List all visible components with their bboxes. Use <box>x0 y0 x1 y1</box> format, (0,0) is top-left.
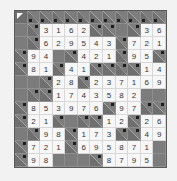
entry-cell[interactable]: 4 <box>78 89 91 102</box>
black-cell <box>153 141 166 154</box>
entry-cell[interactable]: 6 <box>78 141 91 154</box>
entry-cell[interactable]: 4 <box>65 63 78 76</box>
entry-cell[interactable]: 4 <box>40 50 53 63</box>
entry-cell[interactable]: 8 <box>65 76 78 89</box>
entry-cell[interactable]: 9 <box>40 128 53 141</box>
entry-cell[interactable]: 2 <box>90 76 103 89</box>
entry-cell[interactable]: 7 <box>65 89 78 102</box>
clue-number <box>111 64 114 67</box>
entry-cell[interactable]: 5 <box>40 102 53 115</box>
clue-cell <box>103 102 116 115</box>
clue-number <box>91 19 94 22</box>
clue-number <box>111 103 114 106</box>
clue-cell <box>15 63 28 76</box>
entry-cell[interactable]: 6 <box>153 24 166 37</box>
entry-cell[interactable]: 5 <box>103 89 116 102</box>
clue-cell <box>28 37 41 50</box>
entry-cell[interactable]: 1 <box>40 63 53 76</box>
entry-cell[interactable]: 7 <box>28 141 41 154</box>
entry-cell[interactable]: 9 <box>128 50 141 63</box>
entry-cell[interactable]: 8 <box>103 154 116 167</box>
clue-number <box>35 38 38 41</box>
entry-cell[interactable]: 8 <box>116 89 129 102</box>
entry-cell[interactable]: 9 <box>116 102 129 115</box>
entry-cell[interactable]: 7 <box>78 102 91 115</box>
entry-cell[interactable]: 1 <box>141 141 154 154</box>
entry-cell[interactable]: 2 <box>141 37 154 50</box>
black-cell <box>15 76 28 89</box>
entry-cell[interactable]: 2 <box>28 115 41 128</box>
entry-cell[interactable]: 2 <box>53 37 66 50</box>
clue-cell <box>128 11 141 24</box>
entry-cell[interactable]: 6 <box>141 76 154 89</box>
entry-cell[interactable]: 7 <box>116 76 129 89</box>
entry-cell[interactable]: 9 <box>90 141 103 154</box>
entry-cell[interactable]: 6 <box>153 115 166 128</box>
entry-cell[interactable]: 6 <box>90 102 103 115</box>
entry-cell[interactable]: 2 <box>128 89 141 102</box>
entry-cell[interactable]: 3 <box>103 76 116 89</box>
entry-cell[interactable]: 7 <box>128 37 141 50</box>
clue-number <box>85 116 88 119</box>
entry-cell[interactable]: 9 <box>28 50 41 63</box>
clue-cell <box>53 115 66 128</box>
entry-cell[interactable]: 1 <box>53 141 66 154</box>
entry-cell[interactable]: 6 <box>40 37 53 50</box>
entry-cell[interactable]: 2 <box>53 76 66 89</box>
entry-cell[interactable]: 7 <box>90 128 103 141</box>
entry-cell[interactable]: 1 <box>128 76 141 89</box>
entry-cell[interactable]: 1 <box>103 115 116 128</box>
entry-cell[interactable]: 2 <box>141 115 154 128</box>
entry-cell[interactable]: 1 <box>78 128 91 141</box>
entry-cell[interactable]: 1 <box>53 24 66 37</box>
entry-cell[interactable]: 6 <box>65 24 78 37</box>
entry-cell[interactable]: 4 <box>78 50 91 63</box>
entry-cell[interactable]: 7 <box>116 154 129 167</box>
entry-cell[interactable]: 1 <box>153 37 166 50</box>
entry-cell[interactable]: 1 <box>53 89 66 102</box>
entry-cell[interactable]: 8 <box>28 63 41 76</box>
entry-cell[interactable]: 8 <box>53 128 66 141</box>
entry-cell[interactable]: 4 <box>141 128 154 141</box>
entry-cell[interactable]: 4 <box>153 63 166 76</box>
entry-cell[interactable]: 1 <box>141 63 154 76</box>
entry-cell[interactable]: 3 <box>103 37 116 50</box>
entry-cell[interactable]: 9 <box>65 37 78 50</box>
entry-cell[interactable]: 7 <box>128 102 141 115</box>
entry-cell[interactable]: 9 <box>65 102 78 115</box>
entry-cell[interactable]: 8 <box>28 102 41 115</box>
entry-cell[interactable]: 9 <box>128 154 141 167</box>
entry-cell[interactable]: 5 <box>103 141 116 154</box>
entry-cell[interactable]: 9 <box>28 154 41 167</box>
entry-cell[interactable]: 9 <box>153 128 166 141</box>
entry-cell[interactable]: 9 <box>153 76 166 89</box>
entry-cell[interactable]: 3 <box>90 89 103 102</box>
entry-cell[interactable]: 2 <box>116 115 129 128</box>
entry-cell[interactable]: 5 <box>141 50 154 63</box>
clue-number <box>60 64 63 67</box>
entry-cell[interactable]: 1 <box>103 50 116 63</box>
entry-cell[interactable]: 1 <box>40 115 53 128</box>
entry-cell[interactable]: 5 <box>141 154 154 167</box>
entry-cell[interactable]: 2 <box>40 141 53 154</box>
clue-cell <box>65 141 78 154</box>
entry-cell[interactable]: 2 <box>78 24 91 37</box>
entry-cell[interactable]: 2 <box>90 50 103 63</box>
entry-cell[interactable]: 1 <box>78 63 91 76</box>
entry-cell[interactable]: 3 <box>53 102 66 115</box>
entry-cell[interactable]: 3 <box>40 24 53 37</box>
entry-cell[interactable]: 3 <box>103 128 116 141</box>
entry-cell[interactable]: 4 <box>90 37 103 50</box>
clue-number <box>98 155 101 158</box>
clue-number <box>79 19 82 22</box>
clue-cell <box>128 24 141 37</box>
entry-cell[interactable]: 8 <box>116 141 129 154</box>
clue-cell <box>90 154 103 167</box>
entry-cell[interactable]: 8 <box>40 154 53 167</box>
entry-cell[interactable]: 7 <box>128 141 141 154</box>
black-cell <box>153 89 166 102</box>
black-cell <box>153 154 166 167</box>
entry-cell[interactable]: 3 <box>141 24 154 37</box>
entry-cell[interactable]: 5 <box>78 37 91 50</box>
clue-cell <box>15 50 28 63</box>
